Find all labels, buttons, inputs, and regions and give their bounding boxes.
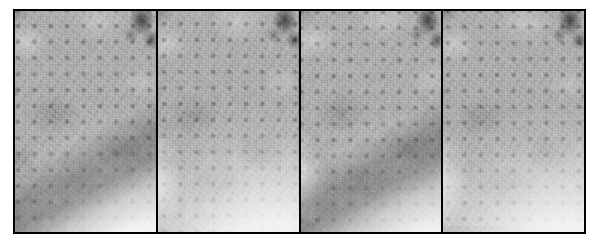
- panel-3-grain-texture: [301, 11, 443, 232]
- micrograph-panel-1[interactable]: [15, 11, 158, 232]
- panel-2-bright-region: [158, 11, 301, 232]
- panel-4-bright-left-sliver: [443, 11, 584, 232]
- panel-3-upper-left-smudge: [301, 11, 444, 232]
- panel-2-dot-lattice-alt: [158, 11, 301, 232]
- panel-1-dark-streak: [15, 11, 158, 232]
- figure-root: [0, 0, 598, 252]
- panel-1-bright-region: [15, 11, 158, 232]
- panel-1-dot-lattice: [15, 11, 158, 232]
- panel-2-upper-left-smudge: [158, 11, 301, 232]
- panel-1-upper-left-smudge: [15, 11, 158, 232]
- panel-1-dark-blob: [15, 11, 158, 232]
- micrograph-panel-4[interactable]: [443, 11, 584, 232]
- panel-3-bright-region: [301, 11, 444, 232]
- panel-3-bright-left-sliver: [301, 11, 444, 232]
- panel-4-grain-texture: [443, 11, 584, 232]
- panel-3-dot-lattice-alt: [301, 11, 444, 232]
- panel-4-noise-overlay: [443, 11, 584, 226]
- panel-4-dark-blob: [443, 11, 584, 232]
- panel-3-dark-streak: [301, 11, 444, 232]
- panel-4-upper-left-smudge: [443, 11, 584, 232]
- panel-2-dark-blob: [158, 11, 301, 232]
- panel-2-noise-overlay: [158, 11, 299, 232]
- micrograph-panel-2[interactable]: [158, 11, 301, 232]
- panel-1-base-texture: [15, 11, 158, 232]
- panel-3-dark-blob: [301, 11, 444, 232]
- panel-2-bright-left-sliver: [158, 11, 301, 232]
- panel-2-grain-texture: [158, 11, 301, 232]
- panel-3-base-texture: [301, 11, 444, 232]
- panel-1-dot-lattice-alt: [15, 11, 158, 232]
- panel-1-noise-overlay: [15, 11, 156, 232]
- panel-4-dot-lattice-alt: [443, 11, 584, 232]
- panel-4-base-texture: [443, 11, 584, 232]
- panel-2-base-texture: [158, 11, 301, 232]
- panel-4-bright-region: [443, 11, 584, 232]
- panel-4-dot-lattice: [443, 11, 584, 232]
- panel-3-dot-lattice: [301, 11, 444, 232]
- panel-3-noise-overlay: [301, 11, 442, 232]
- panel-1-grain-texture: [15, 11, 158, 232]
- micrograph-panel-3[interactable]: [301, 11, 444, 232]
- panel-2-dot-lattice: [158, 11, 301, 232]
- panel-strip: [13, 9, 586, 234]
